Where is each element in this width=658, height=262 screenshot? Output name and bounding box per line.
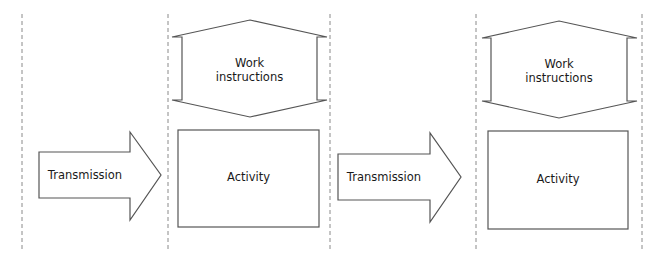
work-instructions-label-2: Work instructions: [491, 57, 627, 85]
process-diagram: [0, 0, 658, 262]
work-instructions-line2: instructions: [182, 70, 317, 84]
transmission-label-1: Transmission: [39, 168, 131, 182]
activity-label-1: Activity: [178, 170, 319, 184]
work-instructions-line2: instructions: [491, 71, 627, 85]
activity-label-2: Activity: [488, 172, 628, 186]
work-instructions-label-1: Work instructions: [182, 56, 317, 84]
work-instructions-line1: Work: [182, 56, 317, 70]
work-instructions-line1: Work: [491, 57, 627, 71]
transmission-label-2: Transmission: [338, 170, 430, 184]
